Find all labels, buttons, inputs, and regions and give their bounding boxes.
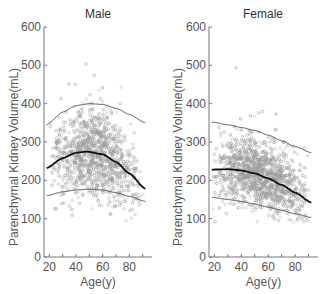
figure: Male010020030040050060020406080Age(y)Par…: [0, 0, 320, 294]
female-panel: Female010020030040050060020406080Age(y)P…: [171, 7, 318, 289]
x-axis-title: Age(y): [80, 275, 115, 289]
y-tick-label: 400: [186, 97, 206, 111]
x-tick-label: 40: [235, 260, 249, 274]
x-tick-label: 80: [288, 260, 302, 274]
y-tick-label: 300: [186, 135, 206, 149]
y-tick-label: 100: [186, 212, 206, 226]
y-tick-label: 200: [186, 173, 206, 187]
y-axis-title: Parenchymal Kidney Volume(mL): [7, 68, 21, 246]
scatter-points: [49, 63, 144, 222]
y-tick-label: 500: [21, 58, 41, 72]
scatter-points: [212, 67, 310, 224]
panel-title: Male: [85, 7, 111, 21]
x-tick-label: 40: [69, 260, 83, 274]
y-tick-label: 300: [21, 135, 41, 149]
y-axis-title: Parenchymal Kidney Volume(mL): [171, 68, 185, 246]
y-tick-label: 0: [34, 250, 41, 264]
x-tick-label: 20: [43, 260, 57, 274]
y-tick-label: 500: [186, 58, 206, 72]
y-tick-label: 600: [186, 20, 206, 34]
y-tick-label: 600: [21, 20, 41, 34]
fit-curve-upper: [47, 104, 146, 125]
x-tick-label: 60: [262, 260, 276, 274]
panel-title: Female: [243, 7, 283, 21]
x-tick-label: 20: [208, 260, 222, 274]
x-tick-label: 60: [96, 260, 110, 274]
x-tick-label: 80: [123, 260, 137, 274]
chart-canvas: Male010020030040050060020406080Age(y)Par…: [0, 0, 320, 294]
y-tick-label: 0: [199, 250, 206, 264]
y-tick-label: 100: [21, 212, 41, 226]
male-panel: Male010020030040050060020406080Age(y)Par…: [7, 7, 152, 289]
y-tick-label: 200: [21, 173, 41, 187]
y-tick-label: 400: [21, 97, 41, 111]
x-axis-title: Age(y): [246, 275, 281, 289]
fit-curve-upper: [212, 122, 312, 153]
